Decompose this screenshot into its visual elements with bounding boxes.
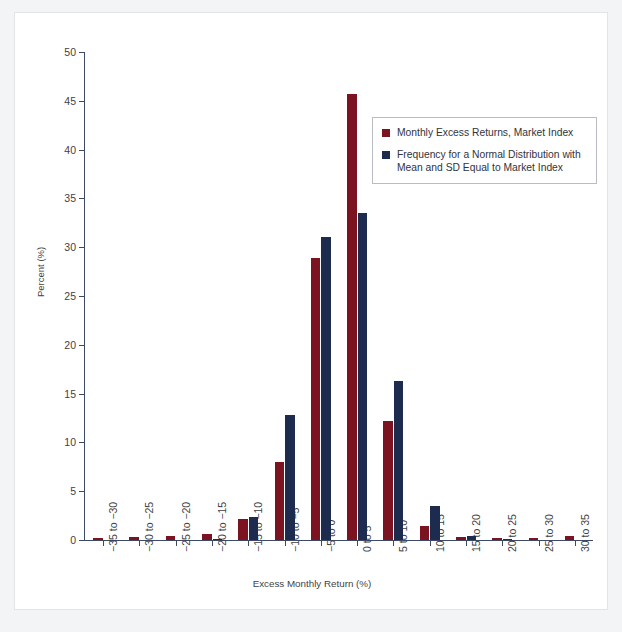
x-axis-tick — [176, 540, 177, 546]
y-axis-tick-label: 5 — [70, 485, 76, 497]
y-axis-tick-label: 20 — [64, 339, 76, 351]
y-axis-tick-label: 0 — [70, 534, 76, 546]
chart-card: Percent (%) 05101520253035404550 −35 to … — [14, 12, 608, 610]
legend-label-series-0: Monthly Excess Returns, Market Index — [397, 126, 573, 139]
x-axis-tick — [248, 540, 249, 546]
x-axis-tick — [285, 540, 286, 546]
x-axis-tick — [502, 540, 503, 546]
y-axis-tick-label: 25 — [64, 290, 76, 302]
x-axis-tick — [321, 540, 322, 546]
x-axis-tick — [357, 540, 358, 546]
chart-legend: Monthly Excess Returns, Market Index Fre… — [372, 117, 597, 184]
x-axis-tick — [393, 540, 394, 546]
x-axis-tick — [539, 540, 540, 546]
x-axis-tick — [575, 540, 576, 546]
y-axis-tick-label: 10 — [64, 436, 76, 448]
y-axis-tick-label: 40 — [64, 144, 76, 156]
x-axis-tick — [212, 540, 213, 546]
legend-label-series-1: Frequency for a Normal Distribution with… — [397, 148, 587, 174]
legend-entry-normal-distribution: Frequency for a Normal Distribution with… — [382, 148, 587, 174]
legend-entry-monthly-excess-returns: Monthly Excess Returns, Market Index — [382, 126, 587, 139]
figure-outer-frame: Percent (%) 05101520253035404550 −35 to … — [0, 0, 622, 632]
x-axis-title: Excess Monthly Return (%) — [15, 578, 609, 589]
x-axis-tick — [103, 540, 104, 546]
bar-series-0 — [565, 536, 575, 540]
y-axis-tick — [79, 540, 85, 541]
y-axis-tick-label: 50 — [64, 46, 76, 58]
x-axis-tick — [139, 540, 140, 546]
y-axis-tick-label: 15 — [64, 388, 76, 400]
y-axis-tick-label: 35 — [64, 192, 76, 204]
y-axis-tick-label: 30 — [64, 241, 76, 253]
y-axis-tick-label: 45 — [64, 95, 76, 107]
legend-swatch-icon-series-0 — [382, 129, 390, 137]
x-axis-tick — [466, 540, 467, 546]
x-axis-tick — [430, 540, 431, 546]
legend-swatch-icon-series-1 — [382, 151, 390, 159]
y-axis-title: Percent (%) — [35, 247, 46, 297]
